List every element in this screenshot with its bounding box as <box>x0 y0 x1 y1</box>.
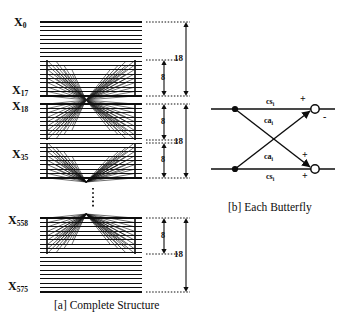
index-label-sub: 35 <box>21 153 29 162</box>
index-label-sub: 17 <box>21 89 29 98</box>
dimension-label-8-bottom: 8 <box>161 231 165 240</box>
coefficient-base: cs <box>266 172 273 181</box>
index-label-sub: 0 <box>23 21 27 30</box>
dimension-label-8-mid-up: 8 <box>161 117 165 126</box>
coefficient-sub: i <box>272 156 274 162</box>
index-label-x575: X575 <box>8 279 28 294</box>
dimension-label-8-mid-down: 8 <box>161 155 165 164</box>
panel-complete-structure: X0 X17 X18 X35 X558 X575 18 8 8 18 8 8 1… <box>0 0 205 300</box>
index-label-base: X <box>12 147 21 161</box>
butterfly-input-node-bottom <box>232 166 238 172</box>
index-label-x17: X17 <box>12 83 28 98</box>
coefficient-base: ca <box>264 116 272 125</box>
coefficient-sub: i <box>273 176 275 182</box>
butterfly-input-node-top <box>232 106 238 112</box>
coefficient-label-cs-top: csi <box>266 97 274 106</box>
dimension-label-18-bottom: 18 <box>174 249 183 259</box>
sign-label-top-plus: + <box>300 93 306 104</box>
dimension-label-18-mid: 18 <box>174 136 183 146</box>
butterfly-graph <box>205 88 353 203</box>
dimension-annotations <box>146 22 190 292</box>
butterfly-crossing-2 <box>48 143 134 182</box>
sign-label-bottom-plus: + <box>302 149 308 160</box>
coefficient-base: cs <box>266 97 273 106</box>
figure-root: X0 X17 X18 X35 X558 X575 18 8 8 18 8 8 1… <box>0 0 353 329</box>
coefficient-base: ca <box>264 152 272 161</box>
coefficient-label-cs-bottom: csi <box>266 172 274 181</box>
butterfly-output-node-bottom <box>311 165 319 173</box>
index-label-x18: X18 <box>12 99 28 114</box>
index-label-sub: 575 <box>17 285 28 294</box>
index-label-sub: 18 <box>21 105 29 114</box>
dimension-label-8-top: 8 <box>161 73 165 82</box>
index-label-base: X <box>8 279 17 293</box>
index-label-sub: 558 <box>17 219 28 228</box>
butterfly-crossing-1 <box>48 61 134 139</box>
coefficient-sub: i <box>273 101 275 107</box>
sign-label-bottom-plus2: + <box>302 170 308 181</box>
butterfly-crossing-3 <box>48 214 134 253</box>
butterfly-riser-1 <box>47 60 135 140</box>
index-label-x35: X35 <box>12 147 28 162</box>
caption-panel-b: [b] Each Butterfly <box>228 201 312 213</box>
index-label-x558: X558 <box>8 213 28 228</box>
index-label-base: X <box>12 99 21 113</box>
dimension-label-18-top: 18 <box>174 53 183 63</box>
coefficient-label-ca-bottom: cai <box>264 152 273 161</box>
coefficient-label-ca-top: cai <box>264 116 273 125</box>
index-label-base: X <box>14 15 23 29</box>
index-label-x0: X0 <box>14 15 26 30</box>
caption-panel-a: [a] Complete Structure <box>54 299 159 311</box>
butterfly-output-node-top <box>311 105 319 113</box>
coefficient-sub: i <box>272 120 274 126</box>
sign-label-top-minus: - <box>323 111 326 122</box>
horizontal-line-bundle <box>40 22 142 292</box>
index-label-base: X <box>12 83 21 97</box>
index-label-base: X <box>8 213 17 227</box>
